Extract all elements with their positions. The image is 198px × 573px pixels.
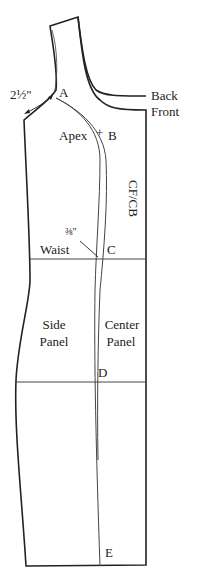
- cf-cb-label: CF/CB: [127, 180, 140, 217]
- point-a-label: A: [59, 86, 68, 99]
- point-e-label: E: [105, 546, 113, 559]
- point-c-label: C: [107, 243, 116, 256]
- point-b-label: B: [108, 129, 117, 142]
- shoulder-measurement-label: 2½": [10, 88, 32, 101]
- apex-label: Apex: [59, 129, 87, 142]
- waist-measurement-label: ⅜": [65, 227, 77, 237]
- princess-seam-center: [56, 98, 107, 460]
- arrowhead-left-icon: [24, 109, 30, 114]
- princess-seam-side: [56, 98, 100, 566]
- point-d-label: D: [98, 366, 107, 379]
- pattern-diagram: [0, 0, 198, 573]
- side-panel-line2: Panel: [34, 335, 74, 348]
- back-neckline: [78, 17, 146, 96]
- front-label: Front: [151, 105, 179, 118]
- center-panel-line1: Center: [99, 318, 145, 331]
- waist-measure-pointer: [80, 241, 98, 257]
- center-panel-line2: Panel: [100, 335, 142, 348]
- back-label: Back: [151, 89, 178, 102]
- front-outline: [16, 17, 146, 566]
- side-panel-line1: Side: [36, 318, 72, 331]
- apex-cross-icon: +: [96, 126, 103, 139]
- waist-label: Waist: [40, 243, 69, 256]
